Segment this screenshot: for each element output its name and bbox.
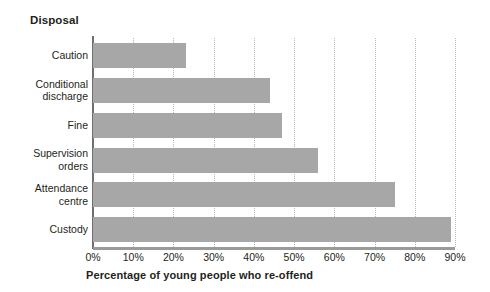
x-axis-tick-labels: 0%10%20%30%40%50%60%70%80%90% bbox=[93, 251, 455, 267]
category-label: Custody bbox=[0, 212, 88, 247]
x-tick-label: 90% bbox=[444, 251, 465, 263]
category-label: Attendancecentre bbox=[0, 177, 88, 212]
bar bbox=[93, 113, 282, 138]
bar-row bbox=[93, 38, 455, 73]
category-label-line: centre bbox=[59, 195, 88, 208]
category-label: Conditionaldischarge bbox=[0, 73, 88, 108]
x-tick-label: 20% bbox=[163, 251, 184, 263]
category-label-line: Attendance bbox=[35, 182, 88, 195]
gridline bbox=[455, 38, 456, 247]
x-tick-label: 0% bbox=[85, 251, 100, 263]
category-label-line: orders bbox=[58, 160, 88, 173]
x-tick-label: 80% bbox=[404, 251, 425, 263]
x-tick-label: 70% bbox=[364, 251, 385, 263]
x-tick-label: 30% bbox=[203, 251, 224, 263]
x-tick-label: 40% bbox=[243, 251, 264, 263]
bar bbox=[93, 182, 395, 207]
category-label-line: Caution bbox=[52, 49, 88, 62]
bar-row bbox=[93, 73, 455, 108]
x-tick-label: 10% bbox=[123, 251, 144, 263]
x-axis-line bbox=[93, 247, 455, 250]
category-label-line: Fine bbox=[68, 119, 88, 132]
bar bbox=[93, 43, 186, 68]
category-label: Fine bbox=[0, 108, 88, 143]
bar-row bbox=[93, 143, 455, 178]
category-label: Caution bbox=[0, 38, 88, 73]
bar-series bbox=[93, 38, 455, 247]
plot-area bbox=[93, 38, 455, 247]
x-tick-label: 60% bbox=[324, 251, 345, 263]
bar-row bbox=[93, 177, 455, 212]
category-label-line: Conditional bbox=[35, 78, 88, 91]
x-tick-label: 50% bbox=[284, 251, 305, 263]
chart-title: Disposal bbox=[30, 14, 79, 26]
bar-row bbox=[93, 212, 455, 247]
bar bbox=[93, 217, 451, 242]
bar-row bbox=[93, 108, 455, 143]
y-axis-category-labels: CautionConditionaldischargeFineSupervisi… bbox=[0, 38, 88, 247]
x-axis-title: Percentage of young people who re-offend bbox=[86, 269, 313, 281]
category-label-line: Supervision bbox=[33, 147, 88, 160]
category-label-line: discharge bbox=[42, 90, 88, 103]
category-label: Supervisionorders bbox=[0, 143, 88, 178]
category-label-line: Custody bbox=[49, 223, 88, 236]
bar-chart: Disposal CautionConditionaldischargeFine… bbox=[0, 0, 490, 292]
bar bbox=[93, 78, 270, 103]
bar bbox=[93, 148, 318, 173]
